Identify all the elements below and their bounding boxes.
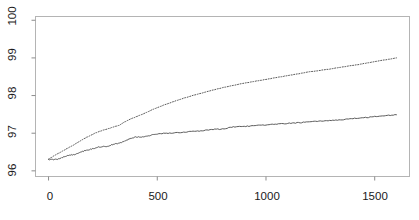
y-tick-label-99: 99 bbox=[6, 48, 18, 61]
y-tick-label-96: 96 bbox=[6, 164, 18, 177]
x-tick-label-1500: 1500 bbox=[362, 190, 388, 202]
chart-background bbox=[0, 0, 419, 220]
x-tick-label-0: 0 bbox=[47, 190, 53, 202]
line-chart: 100 99 98 97 96 0 500 1000 1500 bbox=[0, 0, 419, 220]
chart-figure: 100 99 98 97 96 0 500 1000 1500 bbox=[0, 0, 419, 220]
y-tick-label-98: 98 bbox=[6, 87, 18, 100]
x-tick-label-500: 500 bbox=[148, 190, 167, 202]
y-tick-label-100: 100 bbox=[6, 6, 18, 25]
x-tick-label-1000: 1000 bbox=[254, 190, 280, 202]
y-tick-label-97: 97 bbox=[6, 125, 18, 138]
